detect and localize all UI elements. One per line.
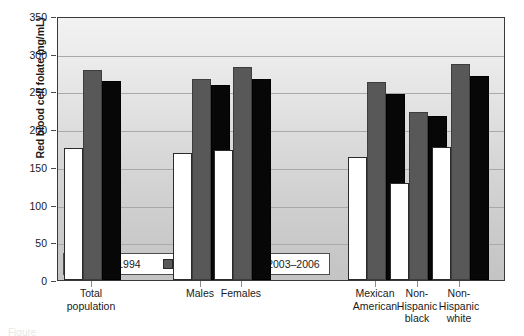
x-axis-label-5: Non- Hispanic white xyxy=(416,287,502,325)
y-tick-label-350: 350 xyxy=(7,11,47,23)
y-tick-label-50: 50 xyxy=(7,237,47,249)
bar-2-1 xyxy=(233,67,252,280)
bar-0-2 xyxy=(102,81,121,280)
y-tick-label-100: 100 xyxy=(7,200,47,212)
bar-2-2 xyxy=(252,79,271,280)
legend-label-2: 2003–2006 xyxy=(267,258,320,270)
bar-5-1 xyxy=(451,64,470,280)
y-tick-mark-100 xyxy=(51,206,56,207)
y-tick-mark-50 xyxy=(51,243,56,244)
bar-4-0 xyxy=(390,183,409,280)
y-tick-label-0: 0 xyxy=(7,275,47,287)
bar-5-2 xyxy=(470,76,489,280)
bar-4-1 xyxy=(409,112,428,280)
y-tick-label-250: 250 xyxy=(7,86,47,98)
bar-1-1 xyxy=(192,79,211,280)
y-tick-label-300: 300 xyxy=(7,49,47,61)
x-axis-label-2: Females xyxy=(198,287,284,300)
plot-area: 1988–19941999–20022003–2006 xyxy=(57,17,505,281)
folate-bar-chart-figure: Red blood cell folate (ng/mL) 0501001502… xyxy=(0,0,524,336)
gridline-300 xyxy=(58,56,504,57)
y-tick-mark-350 xyxy=(51,17,56,18)
y-tick-mark-250 xyxy=(51,92,56,93)
y-tick-mark-200 xyxy=(51,130,56,131)
caption-sliver: Figure xyxy=(8,327,36,336)
x-axis-label-0: Total population xyxy=(48,287,134,312)
y-tick-mark-150 xyxy=(51,168,56,169)
bar-2-0 xyxy=(214,150,233,280)
bar-3-0 xyxy=(348,157,367,280)
legend-swatch-1 xyxy=(163,259,173,269)
gridline-250 xyxy=(58,93,504,94)
bar-1-0 xyxy=(173,153,192,280)
y-tick-label-200: 200 xyxy=(7,124,47,136)
bar-5-0 xyxy=(432,147,451,280)
y-tick-label-150: 150 xyxy=(7,162,47,174)
bar-3-1 xyxy=(367,82,386,280)
bar-0-0 xyxy=(64,148,83,280)
bar-0-1 xyxy=(83,70,102,280)
y-tick-mark-300 xyxy=(51,55,56,56)
y-tick-mark-0 xyxy=(51,281,56,282)
